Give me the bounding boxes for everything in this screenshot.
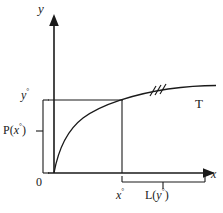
curve-label-T: T (195, 97, 203, 110)
y-axis (49, 14, 59, 173)
l-suffix: ) (165, 188, 169, 202)
x-axis-label: x (211, 168, 216, 180)
y-axis-arrow-icon (49, 14, 59, 26)
l-of-y-nought-label: L(y°) (145, 189, 169, 201)
x-axis (48, 168, 215, 178)
diagram-svg (0, 0, 223, 213)
p-prefix: P( (3, 123, 14, 137)
p-suffix: ) (22, 123, 26, 137)
x-nought-label: x° (116, 189, 124, 201)
p-of-x-nought-label: P(x°) (3, 124, 26, 136)
l-prefix: L( (145, 188, 156, 202)
y-axis-label: y (38, 2, 44, 15)
x-nought-superscript: ° (121, 187, 124, 196)
y-nought-superscript: ° (26, 87, 29, 96)
origin-label: 0 (36, 176, 42, 188)
curve-T (54, 86, 216, 174)
figure-canvas: y x 0 y° P(x°) x° L(y°) T (0, 0, 223, 213)
y-nought-label: y° (21, 89, 29, 101)
left-bracket (36, 100, 49, 173)
